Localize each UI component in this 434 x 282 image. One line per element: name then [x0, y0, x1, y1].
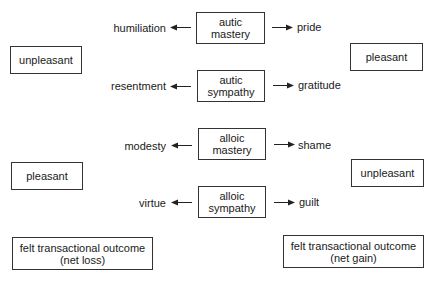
outcome-line2: (net gain): [330, 252, 376, 264]
center-box-alloic-sympathy: alloic sympathy: [198, 186, 266, 218]
valence-label: unpleasant: [19, 54, 73, 66]
arrow-left-icon: [170, 23, 192, 32]
center-box-alloic-mastery: alloic mastery: [198, 128, 266, 160]
arrow-left-icon: [171, 198, 193, 207]
emotion-label-right: gratitude: [298, 79, 341, 91]
arrow-right-icon: [273, 140, 295, 149]
center-box-autic-sympathy: autic sympathy: [197, 70, 265, 102]
emotion-label-left: modesty: [124, 140, 166, 152]
emotion-label-left: humiliation: [113, 22, 166, 34]
emotion-label-right: guilt: [299, 196, 319, 208]
center-box-line2: sympathy: [207, 86, 254, 98]
center-box-autic-mastery: autic mastery: [196, 12, 265, 44]
outcome-box-net-loss: felt transactional outcome (net loss): [12, 237, 153, 270]
center-box-line1: alloic: [219, 132, 244, 144]
valence-label: pleasant: [26, 170, 68, 182]
valence-box-left-bottom: pleasant: [11, 162, 83, 190]
outcome-line1: felt transactional outcome: [291, 240, 416, 252]
center-box-line2: sympathy: [208, 202, 255, 214]
outcome-line2: (net loss): [60, 254, 105, 266]
valence-label: pleasant: [366, 51, 408, 63]
valence-label: unpleasant: [361, 167, 415, 179]
outcome-line1: felt transactional outcome: [20, 242, 145, 254]
emotion-label-right: shame: [298, 139, 331, 151]
arrow-right-icon: [273, 198, 295, 207]
valence-box-right-bottom: unpleasant: [351, 159, 424, 187]
center-box-line1: alloic: [219, 190, 244, 202]
center-box-line1: autic: [219, 74, 242, 86]
arrow-right-icon: [272, 81, 294, 90]
outcome-box-net-gain: felt transactional outcome (net gain): [283, 235, 424, 268]
emotion-label-right: pride: [297, 21, 321, 33]
emotion-label-left: virtue: [139, 197, 166, 209]
center-box-line1: autic: [219, 16, 242, 28]
arrow-left-icon: [170, 82, 192, 91]
valence-box-right-top: pleasant: [350, 43, 423, 71]
emotion-label-left: resentment: [111, 80, 166, 92]
valence-box-left-top: unpleasant: [10, 46, 82, 74]
center-box-line2: mastery: [212, 144, 251, 156]
arrow-left-icon: [171, 141, 193, 150]
center-box-line2: mastery: [211, 28, 250, 40]
arrow-right-icon: [271, 23, 293, 32]
